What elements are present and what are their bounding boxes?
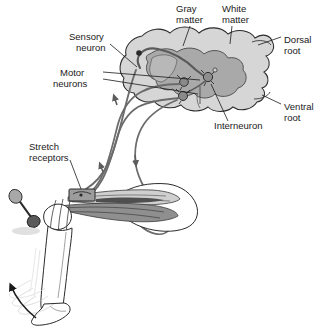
reflex-arc-diagram: Gray matter White matter Dorsal root Ven… [0, 0, 323, 328]
hammer-shadow [12, 227, 40, 235]
label-white-matter: White matter [222, 3, 249, 25]
reflex-arc-figure: Gray matter White matter Dorsal root Ven… [0, 0, 323, 328]
label-interneuron: Interneuron [214, 120, 263, 131]
spinal-cord-cross-section [120, 27, 274, 112]
dorsal-root-ganglion [136, 50, 142, 56]
efferent-loop-arrow [135, 155, 136, 165]
label-gray-matter: Gray matter [176, 3, 203, 25]
muscle-spindle [69, 189, 95, 201]
hammer-head [9, 189, 22, 203]
hammer-tip [27, 215, 40, 227]
